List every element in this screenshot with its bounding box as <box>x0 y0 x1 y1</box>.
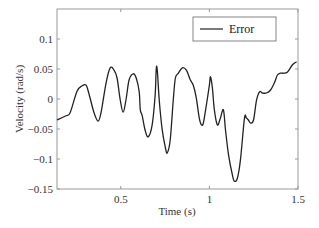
y-tick-label: −0.05 <box>28 123 54 135</box>
y-tick-label: 0 <box>48 93 54 105</box>
y-tick-label: 0.05 <box>34 63 54 75</box>
line-chart: −0.15−0.1−0.0500.050.1 0.511.5 Time (s) … <box>0 0 319 228</box>
x-tick-label: 1 <box>207 193 213 205</box>
y-tick-label: 0.1 <box>39 33 53 45</box>
x-tick-label: 0.5 <box>114 193 128 205</box>
x-axis-label: Time (s) <box>158 205 196 218</box>
y-tick-label: −0.1 <box>33 153 53 165</box>
y-tick-label: −0.15 <box>28 183 54 195</box>
y-axis-label: Velocity (rad/s) <box>13 65 26 133</box>
legend: Error <box>193 17 276 41</box>
legend-label: Error <box>229 22 254 36</box>
x-tick-label: 1.5 <box>291 193 305 205</box>
